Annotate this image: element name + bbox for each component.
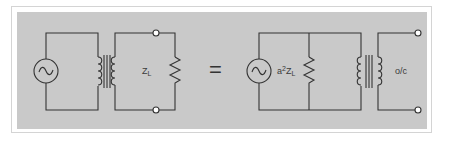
circuit-diagram — [0, 0, 454, 142]
ac-source-icon — [34, 59, 58, 83]
terminal-icon — [415, 107, 421, 113]
resistor-icon — [170, 57, 180, 86]
transformer-icon — [98, 55, 115, 88]
transformer-icon — [357, 55, 382, 88]
left-circuit — [34, 30, 180, 113]
reflected-impedance-label: a2ZL — [277, 66, 295, 77]
reflected-label-exponent: 2 — [282, 65, 286, 72]
terminal-icon — [153, 30, 159, 36]
terminal-icon — [153, 107, 159, 113]
ac-source-icon — [247, 59, 271, 83]
reflected-label-subscript: L — [291, 70, 295, 77]
load-label-main: Z — [142, 66, 148, 76]
equals-sign: = — [209, 59, 222, 81]
load-impedance-label: ZL — [142, 66, 151, 77]
load-label-subscript: L — [148, 70, 152, 77]
resistor-icon — [304, 57, 314, 86]
terminal-icon — [415, 30, 421, 36]
open-circuit-label: o/c — [395, 66, 407, 76]
